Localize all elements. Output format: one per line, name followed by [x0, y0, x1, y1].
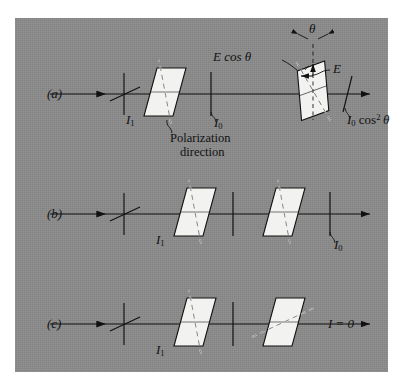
row-label-b: (b) — [47, 206, 62, 222]
polarizer-sheet-a1 — [144, 60, 186, 124]
intensity-label-b-i0: I0 — [334, 238, 343, 253]
label-e-field: E — [333, 62, 341, 76]
polarizer-sheet-b1 — [174, 180, 216, 244]
row-b-group — [50, 180, 370, 244]
leader-e-cos-theta — [282, 60, 297, 70]
polarizer-sheet-b2 — [263, 180, 305, 244]
label-e-cos-theta: E cos θ — [213, 50, 251, 64]
polarization-direction-note: Polarization direction — [170, 131, 230, 159]
row-label-a: (a) — [47, 86, 62, 102]
row-a-group — [50, 34, 370, 133]
intensity-label-b-i1: I1 — [156, 233, 165, 248]
polarizer-sheet-c2-crossed — [252, 298, 316, 346]
row-label-c: (c) — [47, 316, 61, 332]
row-c-group — [50, 290, 370, 354]
output-intensity-label-a: I0 cos2 θ — [347, 113, 389, 128]
intensity-label-a-i1: I1 — [126, 113, 135, 128]
result-label-c: I = 0 — [328, 317, 354, 331]
intensity-label-a-i0: I0 — [214, 116, 223, 131]
polarizer-sheet-c1 — [174, 290, 216, 354]
label-theta-angle: θ — [309, 22, 315, 36]
figure-polarization: (a) (b) (c) I1 I0 E cos θ E θ I0 cos2 θ … — [0, 0, 414, 386]
intensity-label-c-i1: I1 — [156, 343, 165, 358]
